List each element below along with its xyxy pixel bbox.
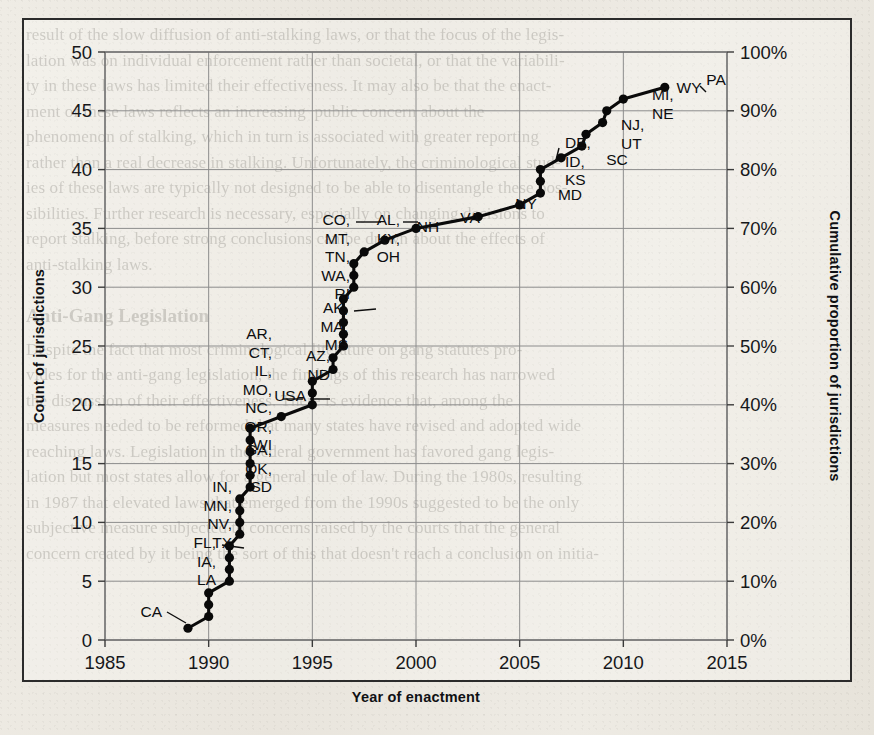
svg-text:45: 45	[71, 100, 92, 121]
y-axis-left-ticks: 05101520253035404550	[71, 42, 105, 651]
point-annotations: CAFL,IA,LAIN,MN,NV,TXGA,OK,SDAR,CT,IL,MO…	[140, 71, 726, 623]
svg-text:25: 25	[71, 336, 92, 357]
svg-text:MD: MD	[558, 186, 582, 203]
svg-text:1990: 1990	[188, 652, 229, 673]
svg-text:50: 50	[71, 42, 92, 63]
svg-text:80%: 80%	[740, 159, 777, 180]
y-axis-title-right: Cumulative proportion of jurisdictions	[827, 210, 843, 481]
svg-text:AL,KY,OH: AL,KY,OH	[377, 211, 400, 265]
svg-text:NJ,UT: NJ,UT	[621, 116, 644, 152]
svg-text:40: 40	[71, 159, 92, 180]
svg-text:0: 0	[82, 630, 92, 651]
svg-text:2010: 2010	[603, 652, 644, 673]
x-axis-title: Year of enactment	[352, 689, 480, 705]
svg-text:15: 15	[71, 453, 92, 474]
svg-text:NY: NY	[515, 195, 537, 212]
svg-text:NH: NH	[417, 218, 439, 235]
svg-text:PA: PA	[706, 71, 726, 88]
svg-text:MI,NE: MI,NE	[652, 86, 674, 122]
svg-text:50%: 50%	[740, 336, 777, 357]
svg-text:30%: 30%	[740, 453, 777, 474]
svg-text:1995: 1995	[292, 652, 333, 673]
svg-text:1985: 1985	[84, 652, 125, 673]
y-axis-right-ticks: 0%10%20%30%40%50%60%70%80%90%100%	[727, 42, 787, 651]
svg-text:30: 30	[71, 277, 92, 298]
svg-text:WY: WY	[677, 79, 702, 96]
svg-text:USA: USA	[274, 387, 307, 404]
svg-text:2000: 2000	[395, 652, 436, 673]
cumulative-enactment-line-chart: 05101520253035404550 0%10%20%30%40%50%60…	[0, 0, 874, 735]
y-axis-title-left: Count of jurisdictions	[31, 269, 47, 423]
svg-text:DE,ID,KS: DE,ID,KS	[565, 134, 591, 188]
axis-titles: Year of enactment Count of jurisdictions…	[31, 210, 843, 705]
svg-text:2005: 2005	[499, 652, 540, 673]
svg-text:5: 5	[82, 571, 92, 592]
x-axis-ticks: 1985199019952000200520102015	[84, 640, 747, 673]
svg-text:10%: 10%	[740, 571, 777, 592]
svg-text:20: 20	[71, 394, 92, 415]
svg-text:2015: 2015	[706, 652, 747, 673]
svg-text:20%: 20%	[740, 512, 777, 533]
svg-text:90%: 90%	[740, 100, 777, 121]
svg-text:AK,MA,MS: AK,MA,MS	[320, 299, 348, 353]
svg-text:VA: VA	[460, 209, 480, 226]
svg-text:AR,CT,IL,MO,NC,OR,WI: AR,CT,IL,MO,NC,OR,WI	[243, 325, 272, 453]
svg-text:CA: CA	[140, 603, 162, 620]
svg-text:10: 10	[71, 512, 92, 533]
svg-text:60%: 60%	[740, 277, 777, 298]
svg-text:CO,MT,TN,WA,RI: CO,MT,TN,WA,RI	[321, 211, 350, 302]
svg-text:70%: 70%	[740, 218, 777, 239]
svg-text:35: 35	[71, 218, 92, 239]
svg-text:100%: 100%	[740, 42, 787, 63]
svg-text:SC: SC	[606, 151, 628, 168]
svg-text:0%: 0%	[740, 630, 767, 651]
svg-text:40%: 40%	[740, 394, 777, 415]
